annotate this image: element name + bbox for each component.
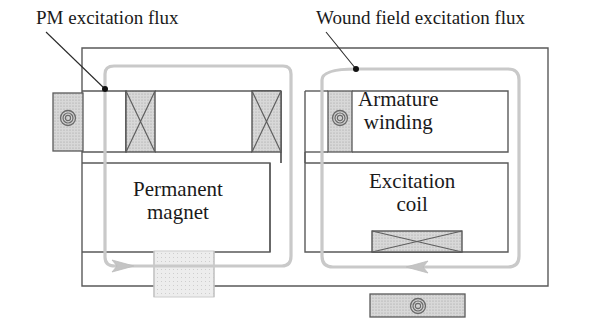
callout-label-pm-flux: PM excitation flux — [36, 8, 178, 29]
armature-winding-block — [328, 91, 352, 152]
excitation-coil-line2: coil — [369, 193, 455, 216]
permanent-magnet-line2: magnet — [133, 201, 223, 224]
outer-housing-frame — [82, 48, 548, 286]
wound-field-flux-leader-dot — [353, 66, 359, 72]
left-core-outline — [82, 91, 281, 252]
pm-coil-slot-right — [252, 91, 281, 152]
diagram-geometry — [0, 0, 610, 327]
pm-coil-slot-left — [126, 91, 155, 152]
pm-flux-leader-line — [46, 32, 108, 92]
armature-winding-line1: Armature — [358, 88, 438, 111]
callout-label-wound-field-flux: Wound field excitation flux — [316, 8, 525, 29]
excitation-coil-box — [372, 231, 462, 252]
excitation-coil-line1: Excitation — [369, 170, 455, 193]
permanent-magnet-line1: Permanent — [133, 178, 223, 201]
center-airgap — [281, 152, 305, 163]
component-label-excitation-coil: Excitation coil — [369, 170, 455, 215]
pm-flux-leader-dot — [102, 86, 108, 92]
component-label-armature-winding: Armature winding — [358, 88, 438, 133]
permanent-magnet-bar — [154, 251, 214, 297]
wound-field-flux-leader-line — [326, 32, 359, 72]
armature-winding-line2: winding — [358, 111, 438, 134]
figure-canvas: PM excitation flux Wound field excitatio… — [0, 0, 610, 327]
component-label-permanent-magnet: Permanent magnet — [133, 178, 223, 223]
left-stator-block — [53, 93, 83, 151]
